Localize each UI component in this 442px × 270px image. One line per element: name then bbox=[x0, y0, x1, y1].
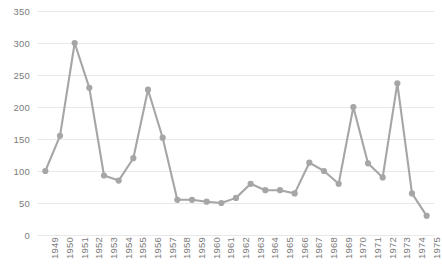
data-point bbox=[350, 104, 356, 110]
data-point bbox=[365, 160, 371, 166]
x-tick-label: 1961 bbox=[225, 237, 236, 259]
x-tick-label: 1960 bbox=[211, 237, 222, 259]
x-tick-label: 1974 bbox=[416, 237, 427, 259]
series-line bbox=[45, 43, 426, 216]
y-tick-label: 0 bbox=[25, 230, 30, 241]
x-tick-label: 1970 bbox=[357, 237, 368, 259]
data-point bbox=[233, 195, 239, 201]
x-tick-label: 1959 bbox=[196, 237, 207, 259]
data-point bbox=[380, 174, 386, 180]
x-tick-label: 1952 bbox=[93, 237, 104, 259]
data-point bbox=[160, 135, 166, 141]
y-tick-label: 250 bbox=[14, 70, 30, 81]
data-point bbox=[424, 213, 430, 219]
y-axis: 050100150200250300350 bbox=[0, 11, 34, 235]
x-tick-label: 1954 bbox=[123, 237, 134, 259]
series-layer bbox=[38, 11, 434, 235]
data-point bbox=[218, 200, 224, 206]
x-tick-label: 1955 bbox=[137, 237, 148, 259]
x-tick-label: 1957 bbox=[167, 237, 178, 259]
x-tick-label: 1968 bbox=[328, 237, 339, 259]
x-tick-label: 1969 bbox=[343, 237, 354, 259]
data-point bbox=[116, 178, 122, 184]
x-tick-label: 1963 bbox=[255, 237, 266, 259]
data-point bbox=[394, 80, 400, 86]
data-point bbox=[248, 181, 254, 187]
data-point bbox=[72, 40, 78, 46]
y-tick-label: 300 bbox=[14, 38, 30, 49]
data-point bbox=[292, 190, 298, 196]
x-tick-label: 1967 bbox=[313, 237, 324, 259]
y-tick-label: 100 bbox=[14, 166, 30, 177]
plot-area bbox=[38, 11, 434, 235]
x-tick-label: 1949 bbox=[49, 237, 60, 259]
data-point bbox=[189, 197, 195, 203]
x-tick-label: 1956 bbox=[152, 237, 163, 259]
data-point bbox=[57, 133, 63, 139]
data-point bbox=[409, 190, 415, 196]
y-tick-label: 50 bbox=[19, 198, 30, 209]
x-tick-label: 1972 bbox=[387, 237, 398, 259]
y-tick-label: 150 bbox=[14, 134, 30, 145]
data-point bbox=[321, 168, 327, 174]
data-point bbox=[336, 181, 342, 187]
x-tick-label: 1950 bbox=[64, 237, 75, 259]
x-tick-label: 1971 bbox=[372, 237, 383, 259]
x-tick-label: 1958 bbox=[181, 237, 192, 259]
data-point bbox=[306, 160, 312, 166]
data-point bbox=[277, 187, 283, 193]
x-tick-label: 1975 bbox=[431, 237, 442, 259]
data-point bbox=[204, 199, 210, 205]
data-point bbox=[174, 197, 180, 203]
x-tick-label: 1965 bbox=[284, 237, 295, 259]
series-markers bbox=[42, 40, 430, 219]
y-tick-label: 350 bbox=[14, 6, 30, 17]
x-tick-label: 1973 bbox=[401, 237, 412, 259]
x-tick-label: 1962 bbox=[240, 237, 251, 259]
x-axis: 1949195019511952195319541955195619571958… bbox=[38, 237, 434, 270]
x-tick-label: 1953 bbox=[108, 237, 119, 259]
data-point bbox=[262, 187, 268, 193]
y-tick-label: 200 bbox=[14, 102, 30, 113]
data-point bbox=[42, 168, 48, 174]
data-point bbox=[130, 155, 136, 161]
data-point bbox=[145, 87, 151, 93]
data-point bbox=[86, 85, 92, 91]
x-tick-label: 1966 bbox=[299, 237, 310, 259]
data-point bbox=[101, 172, 107, 178]
gridline bbox=[38, 235, 434, 236]
x-tick-label: 1951 bbox=[79, 237, 90, 259]
x-tick-label: 1964 bbox=[269, 237, 280, 259]
